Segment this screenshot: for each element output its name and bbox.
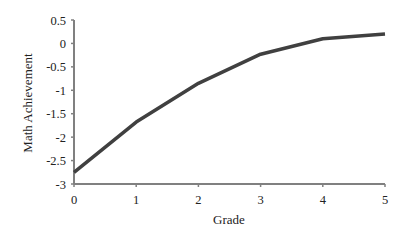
x-tick-label: 1: [133, 193, 139, 207]
y-tick-label: -0.5: [46, 60, 66, 74]
y-tick-label: -2.5: [46, 154, 66, 168]
y-tick-label: -3: [56, 178, 66, 192]
y-tick-label: 0.5: [50, 14, 66, 28]
x-tick-label: 2: [195, 193, 201, 207]
y-tick-label: -2: [56, 131, 66, 145]
x-axis: 012345: [71, 184, 388, 207]
x-tick-label: 5: [382, 193, 388, 207]
line-chart: 0.50-0.5-1-1.5-2-2.5-3 012345 Math Achie…: [0, 0, 401, 242]
series-line-math-achievement: [74, 34, 385, 172]
x-axis-title: Grade: [213, 212, 245, 227]
y-tick-label: -1: [56, 84, 66, 98]
y-axis: 0.50-0.5-1-1.5-2-2.5-3: [46, 14, 74, 192]
x-tick-label: 0: [71, 193, 77, 207]
y-tick-label: -1.5: [46, 107, 66, 121]
y-axis-title: Math Achievement: [20, 53, 35, 153]
x-tick-label: 3: [257, 193, 263, 207]
x-tick-label: 4: [320, 193, 327, 207]
y-tick-label: 0: [60, 37, 66, 51]
